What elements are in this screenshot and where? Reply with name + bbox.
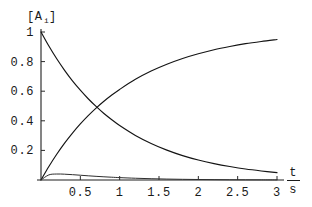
x-tick-labels: 0.511.522.53	[69, 186, 281, 200]
x-tick-label: 1.5	[147, 186, 170, 200]
y-tick-label: 0.2	[11, 144, 34, 158]
y-axis-label: [A i ]	[27, 10, 57, 25]
y-tick-label: 0.6	[11, 85, 34, 99]
y-tick-labels: 10.80.60.40.2	[11, 26, 34, 158]
x-axis-label-denominator: s	[289, 183, 297, 197]
y-axis-label-close: ]	[49, 10, 57, 24]
axes-group	[37, 29, 284, 180]
data-curves	[41, 32, 277, 180]
y-tick-label: 0.8	[11, 56, 34, 70]
x-tick-label: 3	[273, 186, 281, 200]
y-axis-label-open: [A	[27, 10, 43, 24]
x-axis-label-numerator: t	[289, 166, 297, 180]
y-tick-label: 1	[26, 26, 34, 40]
x-tick-label: 2	[194, 186, 202, 200]
curve-reactant-decay	[41, 32, 277, 173]
x-tick-label: 1	[116, 186, 124, 200]
curve-product-growth	[41, 40, 277, 180]
x-tick-label: 2.5	[226, 186, 249, 200]
plot-canvas: 10.80.60.40.2 0.511.522.53 [A i ] t s	[0, 0, 312, 207]
y-tick-marks	[41, 32, 45, 150]
y-tick-label: 0.4	[11, 115, 34, 129]
plot-figure: 10.80.60.40.2 0.511.522.53 [A i ] t s	[0, 0, 312, 207]
x-tick-label: 0.5	[69, 186, 92, 200]
x-axis-label: t s	[287, 166, 300, 197]
